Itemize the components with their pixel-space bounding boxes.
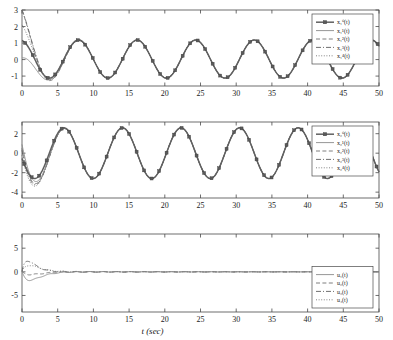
data-marker: [181, 54, 184, 57]
data-marker: [39, 68, 42, 71]
x-tick-label: 25: [197, 315, 205, 324]
data-marker: [210, 177, 213, 180]
data-marker: [98, 172, 101, 175]
data-marker: [24, 41, 27, 44]
data-marker: [286, 75, 289, 78]
data-marker: [136, 39, 139, 42]
data-marker: [143, 169, 146, 172]
data-marker: [249, 40, 252, 43]
data-marker: [69, 46, 72, 49]
x-tick-label: 45: [339, 201, 347, 210]
x-tick-label: 5: [56, 315, 60, 324]
data-marker: [30, 176, 33, 179]
y-tick-label: -1: [11, 72, 18, 81]
data-marker: [339, 76, 342, 79]
x-tick-label: 5: [56, 89, 60, 98]
y-tick-label: 0: [14, 268, 18, 277]
data-marker: [54, 73, 57, 76]
legend-label: x₂¹(t): [337, 140, 350, 147]
y-tick-label: 3: [14, 6, 18, 15]
x-tick-label: 35: [268, 315, 276, 324]
data-marker: [375, 165, 378, 168]
data-marker: [346, 73, 349, 76]
legend-label: x₂⁴(t): [337, 165, 350, 172]
x-tick-label: 50: [375, 315, 383, 324]
data-marker: [45, 159, 48, 162]
x-tick-label: 30: [232, 89, 240, 98]
data-marker: [219, 74, 222, 77]
data-marker: [331, 68, 334, 71]
x-tick-label: 5: [56, 201, 60, 210]
legend-label: x₁¹(t): [337, 28, 350, 35]
x-tick-label: 15: [125, 89, 133, 98]
data-marker: [60, 127, 63, 130]
data-marker: [150, 177, 153, 180]
y-tick-label: -4: [11, 188, 18, 197]
data-marker: [278, 163, 281, 166]
data-marker: [120, 126, 123, 129]
data-marker: [300, 128, 303, 131]
data-marker: [83, 166, 86, 169]
legend-sample-marker: [323, 21, 326, 24]
data-marker: [240, 127, 243, 130]
x-tick-label: 10: [89, 315, 97, 324]
data-marker: [90, 177, 93, 180]
data-marker: [135, 150, 138, 153]
data-marker: [279, 75, 282, 78]
data-marker: [46, 76, 49, 79]
data-marker: [204, 48, 207, 51]
data-marker: [38, 174, 41, 177]
legend-label: u₃(t): [337, 289, 348, 296]
x-tick-label: 45: [339, 315, 347, 324]
legend-label: x₂⁰(t): [337, 131, 350, 138]
data-marker: [121, 57, 124, 60]
data-marker: [263, 174, 266, 177]
data-marker: [248, 138, 251, 141]
x-tick-label: 40: [304, 315, 312, 324]
x-tick-label: 50: [375, 89, 383, 98]
data-marker: [166, 76, 169, 79]
x-tick-label: 25: [197, 201, 205, 210]
data-marker: [264, 50, 267, 53]
data-marker: [293, 129, 296, 132]
x-tick-label: 10: [89, 201, 97, 210]
legend-label: x₂²(t): [337, 148, 350, 155]
data-marker: [128, 132, 131, 135]
x-tick-label: 25: [197, 89, 205, 98]
data-marker: [233, 131, 236, 134]
y-tick-label: 2: [14, 130, 18, 139]
data-marker: [144, 45, 147, 48]
legend-label: u₂(t): [337, 280, 348, 287]
y-tick-label: 2: [14, 23, 18, 32]
data-marker: [256, 40, 259, 43]
y-tick-label: -2: [11, 169, 18, 178]
legend-label: u₄(t): [337, 297, 348, 304]
x-tick-label: 0: [20, 89, 24, 98]
data-marker: [106, 77, 109, 80]
data-marker: [376, 43, 379, 46]
data-marker: [255, 158, 258, 161]
subplot-state-x1: 05101520253035404550-10123x₁⁰(t)x₁¹(t)x₁…: [0, 0, 393, 112]
data-marker: [301, 49, 304, 52]
x-tick-label: 0: [20, 201, 24, 210]
data-marker: [294, 64, 297, 67]
x-tick-label: 20: [161, 315, 169, 324]
x-tick-label: 30: [232, 201, 240, 210]
legend-label: x₁²(t): [337, 36, 350, 43]
subplot-x2-svg: 05101520253035404550-4-202x₂⁰(t)x₂¹(t)x₂…: [0, 112, 393, 224]
data-marker: [270, 176, 273, 179]
x-tick-label: 40: [304, 201, 312, 210]
data-marker: [195, 154, 198, 157]
legend-label: x₁⁰(t): [337, 19, 350, 26]
data-marker: [196, 39, 199, 42]
x-tick-label: 35: [268, 201, 276, 210]
data-marker: [165, 151, 168, 154]
figure-container: 05101520253035404550-10123x₁⁰(t)x₁¹(t)x₁…: [0, 0, 393, 340]
data-marker: [285, 144, 288, 147]
data-marker: [158, 170, 161, 173]
data-marker: [129, 44, 132, 47]
data-marker: [84, 43, 87, 46]
data-marker: [23, 162, 26, 165]
data-marker: [234, 66, 237, 69]
y-tick-label: -5: [11, 291, 18, 300]
